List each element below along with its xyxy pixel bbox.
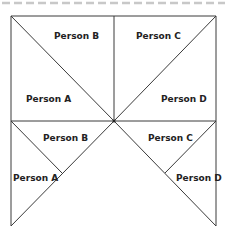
diagram-canvas — [0, 0, 227, 235]
top-label-person-d: Person D — [161, 94, 207, 104]
bottom-label-person-b: Person B — [43, 133, 88, 143]
bottom-label-person-d: Person D — [176, 173, 222, 183]
top-label-person-a: Person A — [26, 94, 71, 104]
top-label-person-b: Person B — [54, 31, 99, 41]
center-point — [113, 120, 116, 123]
top-label-person-c: Person C — [136, 31, 181, 41]
top-panel-lines — [11, 16, 216, 121]
bottom-label-person-c: Person C — [148, 133, 193, 143]
bottom-label-person-a: Person A — [13, 173, 58, 183]
